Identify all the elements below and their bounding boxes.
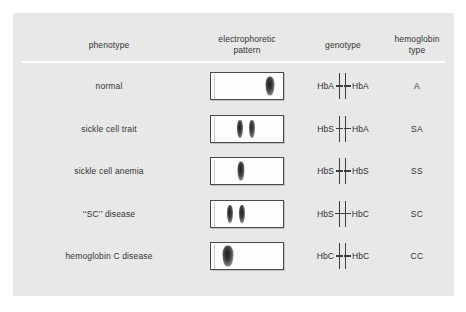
centromere-tick-left [336,170,344,171]
genotype-diagram: HbAHbA [317,73,369,99]
gel-box [210,200,284,228]
genotype-cell: HbSHbC [299,193,387,236]
allele-label-left: HbC [317,251,334,261]
centromere-tick-left [336,128,344,129]
chromosome-pair-icon [335,116,351,142]
table-row: ‘‘SC’’ diseaseHbSHbCSC [13,193,454,236]
column-header-hemoglobin-line2: type [409,45,425,55]
allele-label-right: HbC [352,251,369,261]
centromere-tick-left [336,85,344,86]
table-row: normalHbAHbAA [13,65,454,108]
electrophoretic-pattern-cell [197,108,297,151]
header-divider-rule [22,61,445,63]
table-header: phenotype electrophoretic pattern genoty… [13,13,454,62]
gel-origin-line [214,118,215,142]
chromosome-pair-icon [335,201,351,227]
hemoglobin-type-label: SA [383,108,451,151]
column-header-hemoglobin-line1: hemoglobin [395,34,440,44]
phenotype-label: normal [21,65,197,108]
gel-band [223,246,234,267]
centromere-tick-left [335,213,343,214]
allele-label-left: HbS [317,209,334,219]
centromere-tick-left [336,255,344,256]
hemoglobin-type-label: SS [383,150,451,193]
gel-box [210,242,284,270]
gel-band [266,77,275,96]
hemoglobin-type-label: SC [383,193,451,236]
column-header-hemoglobin-type: hemoglobin type [383,34,451,56]
gel-origin-line [214,245,215,269]
centromere-tick-right [343,213,351,214]
table-body: normalHbAHbAAsickle cell traitHbSHbASAsi… [13,65,454,278]
genotype-diagram: HbSHbC [317,201,369,227]
gel-box [210,115,284,143]
electrophoretic-pattern-cell [197,65,297,108]
column-header-pattern-line1: electrophoretic [218,34,275,44]
allele-label-left: HbS [317,124,334,134]
gel-band [237,120,243,138]
genotype-diagram: HbCHbC [317,243,370,269]
genotype-cell: HbSHbA [299,108,387,151]
gel-origin-line [214,75,215,99]
allele-label-right: HbA [352,81,369,91]
gel-band [227,205,233,223]
phenotype-label: sickle cell trait [21,108,197,151]
genotype-cell: HbCHbC [299,235,387,278]
hemoglobin-type-label: A [383,65,451,108]
genotype-cell: HbAHbA [299,65,387,108]
gel-box [210,72,284,100]
electrophoretic-pattern-cell [197,235,297,278]
hemoglobin-type-label: CC [383,235,451,278]
phenotype-label: ‘‘SC’’ disease [21,193,197,236]
centromere-tick-right [344,85,352,86]
genotype-diagram: HbSHbA [317,116,369,142]
genotype-cell: HbSHbS [299,150,387,193]
chromosome-pair-icon [335,73,351,99]
hemoglobin-phenotype-figure: phenotype electrophoretic pattern genoty… [13,13,454,296]
allele-label-right: HbS [352,166,369,176]
allele-label-left: HbA [317,81,334,91]
gel-box [210,157,284,185]
genotype-diagram: HbSHbS [317,158,369,184]
chromosome-pair-icon [335,158,351,184]
centromere-tick-right [344,128,352,129]
gel-band [239,205,245,223]
column-header-pattern-line2: pattern [233,45,260,55]
column-header-genotype: genotype [299,40,387,51]
gel-origin-line [214,203,215,227]
phenotype-label: sickle cell anemia [21,150,197,193]
phenotype-label: hemoglobin C disease [21,235,197,278]
centromere-tick-right [344,170,352,171]
allele-label-left: HbS [317,166,334,176]
gel-band [249,120,255,138]
table-row: sickle cell anemiaHbSHbSSS [13,150,454,193]
allele-label-right: HbC [352,209,369,219]
gel-band [238,162,245,181]
allele-label-right: HbA [352,124,369,134]
table-row: hemoglobin C diseaseHbCHbCCC [13,235,454,278]
gel-origin-line [214,160,215,184]
electrophoretic-pattern-cell [197,193,297,236]
centromere-tick-right [344,255,352,256]
chromosome-pair-icon [335,243,351,269]
column-header-phenotype: phenotype [21,40,197,51]
electrophoretic-pattern-cell [197,150,297,193]
table-row: sickle cell traitHbSHbASA [13,108,454,151]
column-header-electrophoretic-pattern: electrophoretic pattern [197,34,297,56]
